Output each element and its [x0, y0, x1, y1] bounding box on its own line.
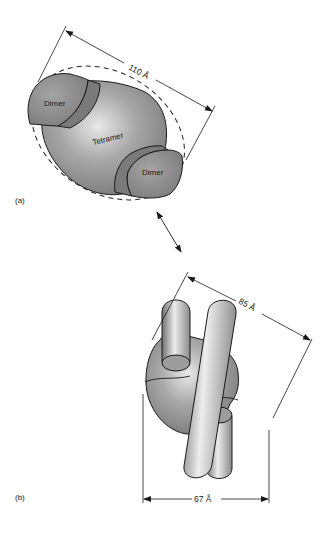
- dimension-extension-right: [186, 106, 215, 160]
- dimension-line-110-b: [156, 80, 212, 111]
- protein-structure-diagram: Dimer Tetramer Dimer 110 Å (a): [0, 0, 330, 540]
- panel-b-label: (b): [15, 493, 25, 502]
- dimension-line-110-a: [66, 31, 124, 63]
- dimension-85-label: 85 Å: [237, 296, 257, 313]
- rod-upper-left: [162, 300, 190, 371]
- dimer-top-label: Dimer: [44, 99, 66, 108]
- dimension-line-85-b: [262, 314, 310, 340]
- dimension-extension-right: [273, 339, 312, 418]
- double-headed-arrow: [157, 212, 181, 252]
- dimension-67-label: 67 Å: [194, 494, 212, 504]
- dimension-110-label: 110 Å: [127, 62, 151, 81]
- dimer-bottom-label: Dimer: [142, 168, 164, 177]
- panel-a-label: (a): [15, 196, 25, 205]
- panel-a: Dimer Tetramer Dimer 110 Å (a): [7, 26, 215, 227]
- dimension-line-85-a: [188, 277, 236, 301]
- panel-b: 85 Å 67 Å (b): [15, 272, 312, 504]
